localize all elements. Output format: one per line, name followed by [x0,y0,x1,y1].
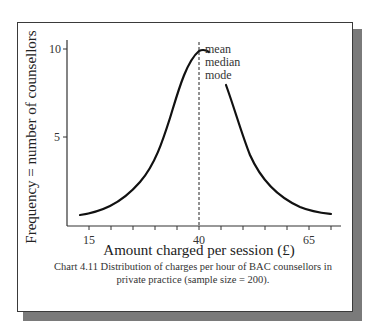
distribution-curve-right [226,85,331,214]
y-tick-label-10: 10 [49,42,61,57]
x-tick-label-65: 65 [303,233,315,248]
x-tick-label-15: 15 [83,233,95,248]
mean-median-mode-annotation: mean median mode [205,43,240,82]
caption-line-1: Chart 4.11 Distribution of charges per h… [48,260,338,273]
distribution-curve-left [80,50,209,215]
y-axis-label: Frequency = number of counsellors [23,30,40,243]
x-axis-label: Amount charged per session (£) [103,242,294,259]
x-ticks [89,226,331,230]
annotation-mode: mode [205,69,240,82]
chart-caption: Chart 4.11 Distribution of charges per h… [48,260,338,286]
caption-line-2: private practice (sample size = 200). [48,273,338,286]
y-tick-label-5: 5 [54,130,60,145]
